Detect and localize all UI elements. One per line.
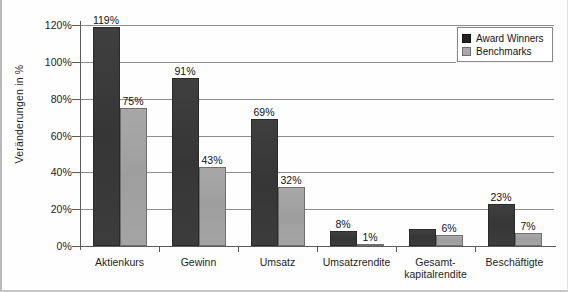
legend-item-benchmarks: Benchmarks xyxy=(462,45,548,57)
bar-value-label: 23% xyxy=(481,191,521,203)
y-axis-tick xyxy=(72,25,80,26)
legend-label-benchmarks: Benchmarks xyxy=(476,46,532,57)
y-axis-tick xyxy=(72,136,80,137)
bar-award-winners xyxy=(93,27,120,246)
chart-frame: Veränderungen in % 0%20%40%60%80%100%120… xyxy=(0,0,568,292)
y-axis-line xyxy=(80,21,81,250)
x-axis-line xyxy=(76,246,556,247)
legend-item-award-winners: Award Winners xyxy=(462,32,548,44)
bar-value-label: 8% xyxy=(323,218,363,230)
legend-label-award-winners: Award Winners xyxy=(476,33,544,44)
bar-value-label: 69% xyxy=(244,106,284,118)
award-winners-swatch xyxy=(462,34,471,43)
y-axis-title: Veränderungen in % xyxy=(13,49,25,179)
y-axis-tick xyxy=(72,172,80,173)
y-axis-tick-label: 80% xyxy=(14,93,72,105)
bar-value-label: 75% xyxy=(113,95,153,107)
x-axis-category-label: Beschäftigte xyxy=(467,257,563,269)
bar-benchmarks xyxy=(278,187,305,246)
gridline xyxy=(80,209,554,210)
grouped-bar-chart: Veränderungen in % 0%20%40%60%80%100%120… xyxy=(2,0,568,292)
y-axis-tick-label: 0% xyxy=(14,240,72,252)
bar-value-label: 1% xyxy=(350,231,390,243)
gridline xyxy=(80,25,554,26)
y-axis-tick-label: 20% xyxy=(14,203,72,215)
y-axis-tick xyxy=(72,62,80,63)
bar-value-label: 119% xyxy=(86,14,126,26)
bar-benchmarks xyxy=(515,233,542,246)
bar-benchmarks xyxy=(120,108,147,246)
benchmarks-swatch xyxy=(462,47,471,56)
bar-benchmarks xyxy=(436,235,463,246)
y-axis-tick-label: 40% xyxy=(14,166,72,178)
bar-benchmarks xyxy=(199,167,226,246)
y-axis-tick-label: 120% xyxy=(14,19,72,31)
y-axis-tick-label: 100% xyxy=(14,56,72,68)
y-axis-tick-label: 60% xyxy=(14,130,72,142)
bar-value-label: 6% xyxy=(429,222,469,234)
bar-value-label: 7% xyxy=(508,220,548,232)
bar-value-label: 43% xyxy=(192,154,232,166)
bar-value-label: 91% xyxy=(165,65,205,77)
gridline xyxy=(80,172,554,173)
gridline xyxy=(80,136,554,137)
y-axis-tick xyxy=(72,99,80,100)
bar-value-label: 32% xyxy=(271,174,311,186)
chart-legend: Award Winners Benchmarks xyxy=(457,27,553,62)
y-axis-tick xyxy=(72,209,80,210)
